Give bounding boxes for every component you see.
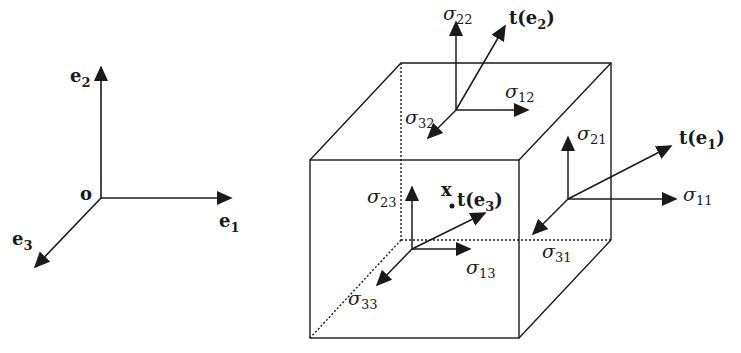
traction-e2-arrow — [456, 26, 505, 110]
traction-e3-label: t(e3) — [457, 189, 503, 214]
sigma21-label: σ21 — [577, 122, 607, 147]
e1-label: e1 — [219, 210, 240, 235]
sigma33-arrow — [377, 249, 412, 285]
sigma33-label: σ33 — [348, 287, 378, 312]
e3-axis-arrow — [35, 198, 101, 267]
stress-cube-diagram: o e2 e1 e3 σ22 t(e2) σ12 σ32 σ21 t(e1) σ… — [0, 0, 741, 353]
right-face-vectors — [533, 137, 676, 234]
origin-label: o — [80, 183, 92, 204]
sigma32-label: σ32 — [405, 106, 435, 131]
point-x-label: x — [441, 179, 452, 200]
sigma31-arrow — [533, 199, 568, 234]
traction-e1-label: t(e1) — [679, 127, 725, 152]
sigma11-label: σ11 — [683, 183, 713, 208]
sigma31-label: σ31 — [542, 240, 572, 265]
sigma12-label: σ12 — [505, 80, 535, 105]
point-x-dot — [450, 204, 455, 209]
e3-label: e3 — [12, 228, 33, 253]
sigma13-label: σ13 — [466, 256, 496, 281]
sigma22-label: σ22 — [443, 2, 473, 27]
traction-e1-arrow — [568, 146, 671, 199]
traction-e2-label: t(e2) — [509, 7, 555, 32]
e2-label: e2 — [70, 65, 91, 90]
sigma23-label: σ23 — [367, 185, 397, 210]
traction-e3-arrow — [412, 213, 485, 249]
basis-frame — [35, 67, 231, 267]
